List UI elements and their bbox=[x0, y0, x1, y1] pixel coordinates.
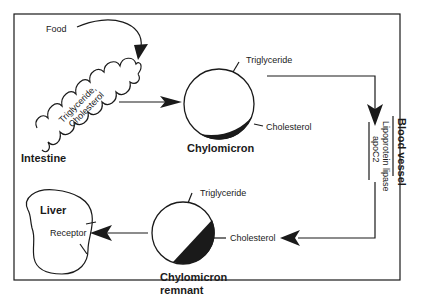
lipoprotein-lipase-label: Lipoprotein lipase bbox=[381, 121, 391, 192]
remnant-label-line2: remnant bbox=[160, 284, 204, 296]
chylomicron-cholesterol-label: Cholesterol bbox=[266, 122, 312, 132]
vessel-to-remnant-arrow bbox=[298, 182, 375, 238]
arrowhead-icon bbox=[280, 230, 300, 246]
chylomicron-pathway-diagram: Food Triglyceride, Cholesterol Intestine… bbox=[0, 0, 423, 305]
food-arrow bbox=[77, 20, 141, 48]
remnant-label-line1: Chylomicron bbox=[160, 271, 228, 283]
chylomicron-triglyceride-label: Triglyceride bbox=[246, 55, 292, 65]
receptor-label: Receptor bbox=[50, 228, 87, 238]
remnant-triglyceride-label: Triglyceride bbox=[200, 188, 246, 198]
released-cholesterol-label: Cholesterol bbox=[230, 233, 276, 243]
chylomicron-label: Chylomicron bbox=[187, 142, 255, 154]
food-arrowhead-icon bbox=[134, 44, 148, 60]
blood-vessel-label: Blood vessel bbox=[396, 118, 408, 186]
liver-label: Liver bbox=[40, 204, 67, 216]
chylomicron-to-vessel-arrow bbox=[267, 76, 375, 110]
food-label: Food bbox=[46, 24, 67, 34]
intestine-label: Intestine bbox=[21, 152, 66, 164]
apoc2-label: apoC2 bbox=[371, 136, 381, 163]
